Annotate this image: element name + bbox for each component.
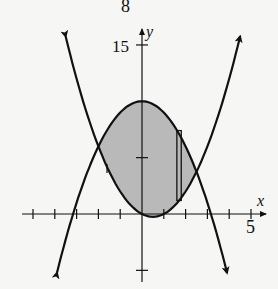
area-between-curves-figure: 8 15 y x 5 <box>0 0 278 289</box>
figure-number: 8 <box>121 0 130 16</box>
y-axis-label: y <box>144 23 154 41</box>
x-tick-label-5: 5 <box>246 217 255 237</box>
y-tick-label-15: 15 <box>112 37 129 56</box>
x-axis-label: x <box>256 192 264 209</box>
